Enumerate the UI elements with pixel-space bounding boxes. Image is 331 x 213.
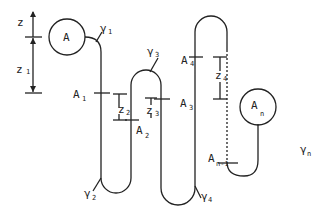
bead-a: A — [49, 19, 85, 55]
a3-label: A — [180, 97, 187, 110]
z-label: z — [17, 16, 24, 29]
a1-label: A — [73, 88, 80, 101]
svg-text:2: 2 — [92, 194, 96, 202]
svg-text:1: 1 — [108, 28, 112, 36]
a2-label: A — [136, 124, 143, 137]
svg-text:4: 4 — [190, 60, 194, 68]
bead-a-label: A — [63, 31, 70, 44]
an-1-label: A — [208, 152, 215, 165]
svg-text:4: 4 — [208, 196, 212, 204]
svg-text:3: 3 — [155, 110, 159, 118]
gamma3-label: γ — [147, 45, 154, 58]
bead-an-label: A — [251, 99, 258, 112]
z4-label: z — [215, 69, 222, 82]
gamma2-label: γ — [84, 187, 91, 200]
bead-an: A n — [240, 89, 276, 125]
gamma4-label: γ — [201, 190, 208, 203]
svg-text:1: 1 — [26, 68, 30, 76]
svg-text:2: 2 — [126, 109, 130, 117]
svg-text:1: 1 — [82, 95, 86, 103]
z1-label: z — [16, 63, 23, 76]
svg-text:4: 4 — [223, 75, 227, 83]
svg-text:2: 2 — [145, 132, 149, 140]
svg-text:n: n — [307, 150, 311, 158]
z-dimension: z — [17, 11, 42, 37]
svg-text:3: 3 — [189, 104, 193, 112]
z2-label: z — [118, 103, 125, 116]
svg-text:n: n — [260, 110, 264, 118]
svg-text:3: 3 — [155, 51, 159, 59]
z3-label: z — [146, 104, 153, 117]
gamma1-label: γ — [100, 22, 107, 35]
svg-text:n-1: n-1 — [216, 160, 229, 168]
a4-label: A — [181, 54, 188, 67]
folding-chain-diagram: z z 1 A A n γ 1 A 1 z 2 A 2 z 3 — [0, 0, 331, 213]
z1-dimension: z 1 — [16, 38, 42, 93]
gamman-label: γ — [300, 143, 307, 156]
